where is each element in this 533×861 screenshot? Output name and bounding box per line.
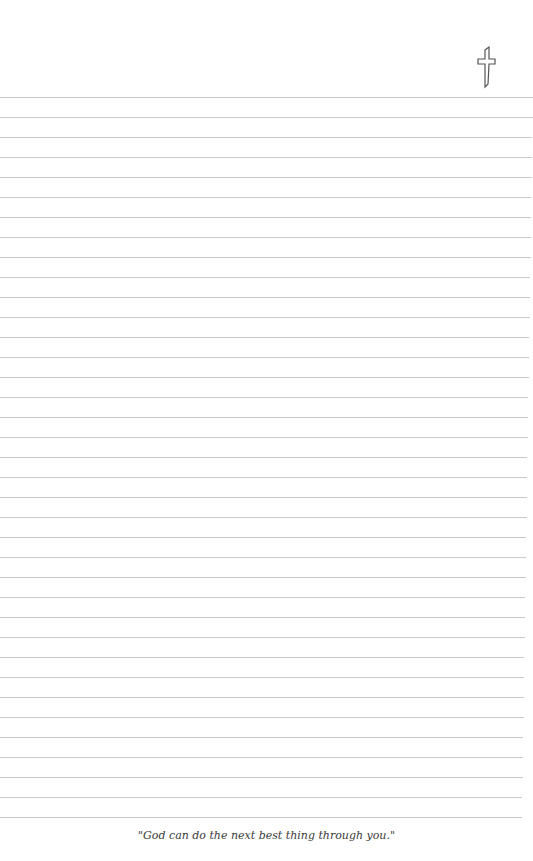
ruled-line bbox=[0, 177, 532, 178]
ruled-line bbox=[0, 357, 529, 358]
ruled-line bbox=[0, 777, 523, 778]
ruled-line bbox=[0, 297, 530, 298]
ruled-line bbox=[0, 137, 532, 138]
ruled-line bbox=[0, 397, 528, 398]
ruled-line bbox=[0, 677, 524, 678]
ruled-line bbox=[0, 477, 527, 478]
ruled-line bbox=[0, 557, 526, 558]
cross-icon bbox=[476, 46, 502, 90]
ruled-line bbox=[0, 377, 529, 378]
ruled-line bbox=[0, 457, 527, 458]
ruled-line bbox=[0, 257, 531, 258]
ruled-line bbox=[0, 737, 523, 738]
ruled-line bbox=[0, 597, 525, 598]
ruled-line bbox=[0, 417, 528, 418]
ruled-line bbox=[0, 697, 524, 698]
ruled-line bbox=[0, 757, 523, 758]
ruled-line bbox=[0, 517, 527, 518]
ruled-line bbox=[0, 437, 528, 438]
ruled-line bbox=[0, 717, 524, 718]
ruled-line bbox=[0, 157, 532, 158]
ruled-line bbox=[0, 577, 526, 578]
ruled-line bbox=[0, 197, 531, 198]
ruled-line bbox=[0, 337, 529, 338]
ruled-line bbox=[0, 277, 530, 278]
ruled-line bbox=[0, 817, 522, 818]
ruled-line bbox=[0, 117, 533, 118]
ruled-line bbox=[0, 537, 526, 538]
ruled-line bbox=[0, 217, 531, 218]
ruled-line bbox=[0, 317, 530, 318]
ruled-line bbox=[0, 97, 533, 98]
ruled-line bbox=[0, 637, 525, 638]
footer-quote: "God can do the next best thing through … bbox=[0, 829, 533, 842]
ruled-line bbox=[0, 617, 525, 618]
ruled-line bbox=[0, 797, 522, 798]
ruled-line bbox=[0, 657, 524, 658]
ruled-line bbox=[0, 497, 527, 498]
ruled-line bbox=[0, 237, 531, 238]
